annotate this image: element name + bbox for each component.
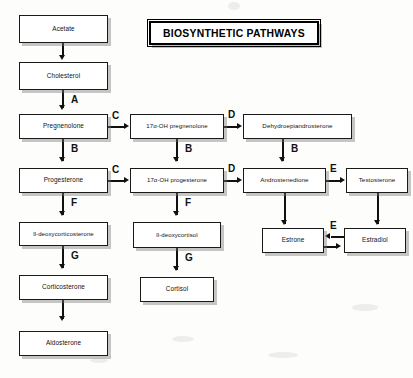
enzyme-label-b1: B bbox=[71, 144, 78, 154]
edge-estradiol-estrone bbox=[331, 236, 344, 238]
enzyme-label-g1: G bbox=[71, 251, 79, 261]
arrowhead-right bbox=[340, 177, 345, 183]
node-cortisol-label: Cortisol bbox=[164, 286, 190, 293]
arrowhead-right bbox=[124, 177, 129, 183]
arrowhead-down bbox=[59, 55, 65, 60]
arrowhead-down bbox=[173, 211, 179, 216]
node-acetate: Acetate bbox=[19, 15, 108, 43]
diagram-title: BIOSYNTHETIC PATHWAYS bbox=[149, 21, 319, 45]
node-testosterone: Testosterone bbox=[346, 168, 408, 193]
node-androstenedione: Androstenedione bbox=[243, 168, 326, 193]
node-androstenedione-label: Androstenedione bbox=[258, 177, 310, 184]
enzyme-label-c1: C bbox=[112, 111, 119, 121]
arrowhead-right bbox=[237, 177, 242, 183]
scan-artifact bbox=[268, 352, 298, 358]
arrowhead-down bbox=[59, 316, 65, 321]
arrowhead-down bbox=[281, 220, 287, 225]
node-dhea-label: Dehydroepiandrosterone bbox=[260, 123, 334, 130]
enzyme-label-b2: B bbox=[185, 144, 192, 154]
diagram-canvas: BIOSYNTHETIC PATHWAYS Acetate Cholestero… bbox=[0, 0, 413, 378]
enzyme-label-c2: C bbox=[112, 165, 119, 175]
scan-artifact bbox=[352, 304, 378, 311]
arrowhead-right bbox=[124, 123, 129, 129]
node-progesterone-label: Progesterone bbox=[42, 177, 86, 184]
node-corticosterone: Corticosterone bbox=[19, 275, 108, 300]
node-dhea: Dehydroepiandrosterone bbox=[243, 114, 352, 139]
node-deoxycorticosterone-label: ll-deoxycorticosterone bbox=[31, 231, 96, 237]
enzyme-label-f1: F bbox=[71, 198, 77, 208]
node-estrone: Estrone bbox=[262, 228, 324, 253]
arrowhead-down bbox=[59, 211, 65, 216]
diagram-title-text: BIOSYNTHETIC PATHWAYS bbox=[163, 28, 305, 39]
node-cholesterol: Cholesterol bbox=[19, 62, 108, 90]
arrowhead-down bbox=[279, 157, 285, 162]
node-pregnenolone: Pregnenolone bbox=[19, 114, 108, 139]
arrowhead-right bbox=[336, 243, 341, 249]
node-cholesterol-label: Cholesterol bbox=[45, 73, 82, 80]
node-oh-pregnenolone-label: 17α-OH pregnenolone bbox=[144, 123, 209, 129]
node-progesterone: Progesterone bbox=[19, 168, 108, 193]
scan-artifact bbox=[228, 2, 240, 10]
enzyme-label-b3: B bbox=[291, 144, 298, 154]
node-deoxycorticosterone: ll-deoxycorticosterone bbox=[19, 222, 108, 246]
enzyme-label-f2: F bbox=[185, 198, 191, 208]
node-deoxycortisol-label: ll-deoxycortisol bbox=[154, 232, 199, 238]
node-aldosterone: Aldosterone bbox=[19, 331, 108, 356]
node-acetate-label: Acetate bbox=[50, 26, 76, 33]
node-oh-pregnenolone: 17α-OH pregnenolone bbox=[130, 114, 224, 139]
node-testosterone-label: Testosterone bbox=[357, 177, 398, 184]
enzyme-label-e2: E bbox=[330, 221, 337, 231]
enzyme-label-g2: G bbox=[185, 253, 193, 263]
arrowhead-right bbox=[237, 123, 242, 129]
arrowhead-down bbox=[59, 264, 65, 269]
node-corticosterone-label: Corticosterone bbox=[40, 284, 87, 291]
node-pregnenolone-label: Pregnenolone bbox=[41, 123, 86, 130]
scan-artifact bbox=[90, 358, 108, 363]
enzyme-label-e1: E bbox=[330, 164, 337, 174]
scan-artifact bbox=[172, 336, 194, 342]
enzyme-label-d2: D bbox=[228, 164, 235, 174]
node-deoxycortisol: ll-deoxycortisol bbox=[133, 222, 221, 248]
node-estradiol: Estradiol bbox=[344, 228, 406, 253]
node-aldosterone-label: Aldosterone bbox=[44, 340, 83, 347]
node-oh-progesterone-label: 17α-OH progesterone bbox=[145, 177, 209, 183]
arrowhead-down bbox=[374, 220, 380, 225]
node-oh-progesterone: 17α-OH progesterone bbox=[130, 168, 224, 193]
enzyme-label-a: A bbox=[71, 95, 78, 105]
arrowhead-left bbox=[325, 233, 330, 239]
node-estrone-label: Estrone bbox=[280, 237, 307, 244]
arrowhead-down bbox=[59, 157, 65, 162]
node-estradiol-label: Estradiol bbox=[360, 237, 390, 244]
node-cortisol: Cortisol bbox=[140, 277, 214, 302]
enzyme-label-d1: D bbox=[228, 110, 235, 120]
arrowhead-down bbox=[59, 105, 65, 110]
arrowhead-down bbox=[173, 157, 179, 162]
arrowhead-down bbox=[173, 266, 179, 271]
